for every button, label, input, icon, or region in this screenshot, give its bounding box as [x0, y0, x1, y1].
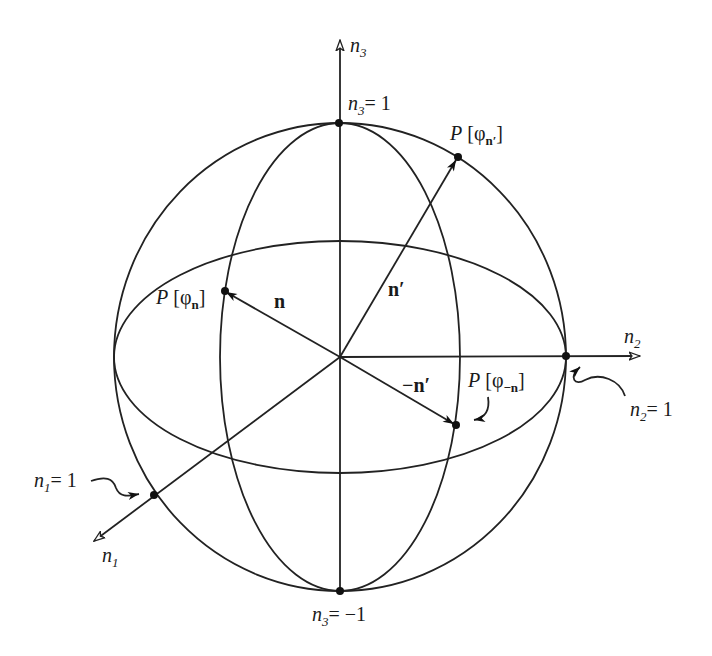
- n2-unit-label: n2= 1: [630, 398, 673, 424]
- n2-axis-label: n2: [624, 325, 641, 351]
- bloch-sphere-diagram: n3 n3= 1 n3= −1 n2 n2= 1 n1 n1= 1 n n′ −…: [0, 0, 712, 656]
- n1-unit-label: n1= 1: [34, 469, 77, 495]
- pointer-n1-unit: [91, 478, 139, 495]
- n3-bottom-label: n3= −1: [312, 603, 366, 629]
- point-n3-bottom: [336, 587, 344, 595]
- point-P-phi-n-prime: [454, 153, 462, 161]
- vector-minus-n-prime-label: −n′: [402, 374, 430, 396]
- vector-minus-n-prime: [340, 357, 454, 424]
- n1-axis: [94, 357, 340, 541]
- P-phi-n-prime-label: P [φn′]: [449, 122, 503, 148]
- pointer-n2-unit: [574, 367, 625, 396]
- point-n1: [150, 491, 158, 499]
- n3-top-label: n3= 1: [348, 92, 391, 118]
- point-n2: [562, 352, 570, 360]
- point-P-phi-minus-n: [452, 421, 460, 429]
- vector-n-prime: [340, 160, 456, 357]
- pointer-P-phi-minus-n: [474, 397, 488, 420]
- n1-axis-label: n1: [102, 544, 119, 570]
- point-n3-top: [335, 119, 343, 127]
- P-phi-n-label: P [φn]: [155, 286, 205, 312]
- point-P-phi-n: [221, 287, 229, 295]
- n3-axis-label: n3: [350, 34, 367, 60]
- vector-n-label: n: [274, 290, 285, 312]
- n2-axis: [340, 356, 640, 357]
- vector-n-prime-label: n′: [388, 278, 405, 300]
- P-phi-minus-n-label: P [φ−n]: [467, 369, 525, 395]
